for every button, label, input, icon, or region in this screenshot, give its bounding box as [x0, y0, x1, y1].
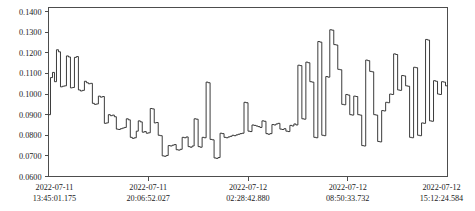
- x-tick-label-date: 2022-07-12: [422, 183, 460, 192]
- x-tick-label-time: 15:12:24.584: [420, 194, 463, 203]
- y-tick-label: 0.0800: [19, 131, 42, 140]
- timeseries-step-chart: 0.06000.07000.08000.09000.10000.11000.12…: [0, 0, 475, 211]
- x-tick-label-date: 2022-07-11: [36, 183, 74, 192]
- y-axis-tick-labels: 0.06000.07000.08000.09000.10000.11000.12…: [19, 8, 42, 182]
- x-tick-label-date: 2022-07-12: [229, 183, 267, 192]
- y-tick-label: 0.1200: [19, 49, 42, 58]
- y-tick-label: 0.1100: [19, 69, 41, 78]
- chart-background: [0, 0, 475, 211]
- x-tick-label-time: 08:50:33.732: [326, 194, 369, 203]
- chart-figure: 0.06000.07000.08000.09000.10000.11000.12…: [0, 0, 475, 211]
- x-tick-label-time: 02:28:42.880: [226, 194, 269, 203]
- y-tick-label: 0.0600: [19, 173, 42, 182]
- x-tick-label-time: 13:45:01.175: [33, 194, 76, 203]
- y-tick-label: 0.0700: [19, 152, 42, 161]
- y-tick-label: 0.1400: [19, 8, 42, 17]
- x-tick-label-date: 2022-07-12: [329, 183, 367, 192]
- y-tick-label: 0.0900: [19, 111, 42, 120]
- x-tick-label-time: 20:06:52.027: [127, 194, 170, 203]
- y-tick-label: 0.1300: [19, 28, 42, 37]
- y-tick-label: 0.1000: [19, 90, 42, 99]
- x-tick-label-date: 2022-07-11: [129, 183, 167, 192]
